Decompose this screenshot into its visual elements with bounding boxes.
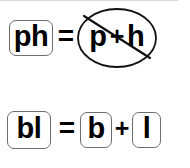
equals-sign-top: = <box>55 22 77 54</box>
crossed-out-sum-group: p + h <box>76 7 158 69</box>
phoneme-glyph-h: h <box>127 22 145 54</box>
plus-sign-bottom: + <box>112 116 132 144</box>
equation-row-ph: ph = p + h <box>9 8 158 68</box>
figure-root: ph = p + h bl = b + l <box>0 0 190 168</box>
phoneme-glyph-p: p <box>89 22 107 54</box>
blend-tile-bl: bl <box>7 111 51 149</box>
blend-tile-ph: ph <box>9 20 53 56</box>
phoneme-tile-b: b <box>80 112 112 148</box>
plus-sign-top: + <box>107 24 127 52</box>
frame-border-left <box>0 1 3 161</box>
frame-border-right <box>0 161 3 168</box>
equals-sign-bottom: = <box>54 114 80 146</box>
frame-border-top <box>0 0 178 1</box>
phoneme-tile-l: l <box>132 112 161 148</box>
equation-row-bl: bl = b + l <box>7 104 161 156</box>
sum-p-plus-h: p + h <box>89 22 144 54</box>
